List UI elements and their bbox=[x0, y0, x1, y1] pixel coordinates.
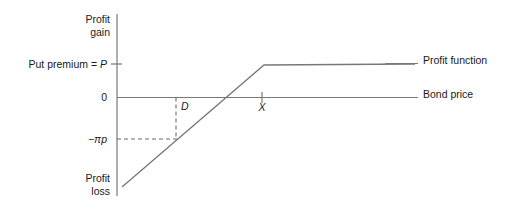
neg-pi-p-axis-label: −πp bbox=[60, 133, 107, 146]
y-axis-bottom-label-line2: loss bbox=[91, 185, 110, 197]
legend-label-bond-price: Bond price bbox=[423, 88, 473, 101]
legend-label-profit-function: Profit function bbox=[423, 54, 487, 67]
y-axis-top-label-line1: Profit bbox=[85, 13, 110, 25]
y-axis-bottom-label: Profitloss bbox=[64, 172, 110, 197]
put-premium-label-text: Put premium = bbox=[28, 58, 100, 70]
y-axis-top-label-line2: gain bbox=[90, 26, 110, 38]
profit-function-line bbox=[122, 64, 415, 187]
y-axis-top-label: Profitgain bbox=[64, 13, 110, 38]
d-segment-label: D bbox=[181, 100, 189, 113]
payoff-diagram-figure: Profitgain Profitloss Put premium = P 0 … bbox=[0, 0, 506, 214]
put-premium-symbol: P bbox=[100, 58, 107, 70]
zero-axis-label: 0 bbox=[80, 91, 107, 104]
put-premium-axis-label: Put premium = P bbox=[2, 58, 107, 71]
strike-axis-label: X bbox=[253, 101, 271, 114]
y-axis-bottom-label-line1: Profit bbox=[85, 172, 110, 184]
